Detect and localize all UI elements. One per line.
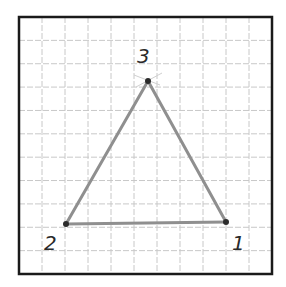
vertex-point-2	[63, 221, 69, 227]
vertex-point-1	[223, 219, 229, 225]
triangle-edge-3-2	[66, 81, 148, 224]
vertex-label-3: 3	[137, 44, 150, 68]
vertex-label-1: 1	[232, 231, 245, 255]
triangle-edge-1-3	[148, 81, 226, 222]
triangle-edges	[66, 81, 226, 224]
vertex-label-2: 2	[44, 231, 57, 255]
triangle-edge-2-1	[66, 222, 226, 224]
vertex-point-3	[145, 78, 151, 84]
triangle-diagram: 123	[0, 0, 286, 287]
